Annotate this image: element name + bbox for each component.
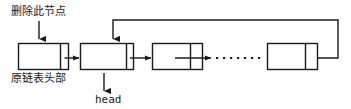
- label-delete-node: 删除此节点: [11, 6, 66, 17]
- node-1: [19, 44, 69, 70]
- diagram-canvas: 删除此节点 原链表头部 head: [0, 0, 351, 109]
- label-original-list-head: 原链表头部: [11, 73, 66, 84]
- node-3-box: [153, 44, 203, 70]
- node-2-box: [81, 44, 134, 70]
- label-head-pointer: head: [95, 94, 122, 105]
- ellipsis-dots: [216, 57, 260, 59]
- node-last: [268, 44, 318, 70]
- node-2: [81, 44, 134, 70]
- node-last-box: [268, 44, 318, 70]
- node-3: [153, 44, 203, 70]
